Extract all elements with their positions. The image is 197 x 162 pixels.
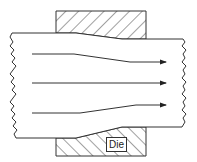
workpiece xyxy=(10,33,186,138)
die-label: Die xyxy=(106,137,127,152)
die-flow-diagram xyxy=(0,0,197,162)
